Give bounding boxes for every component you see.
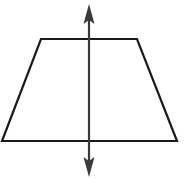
symmetry-line [84, 4, 95, 177]
diagram-canvas [0, 0, 196, 181]
